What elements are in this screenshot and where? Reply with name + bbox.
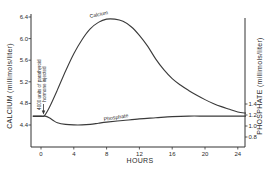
y-tick-label: 4.8 (20, 100, 29, 106)
series-line-phosphate (33, 116, 246, 125)
y-tick-label: 6.0 (20, 36, 29, 42)
x-tick-label: 16 (169, 151, 176, 157)
injection-annotation-text: 4000 units of parathyroid hormone inject… (37, 58, 47, 110)
x-tick-label: 0 (39, 151, 43, 157)
injection-annotation-line2: hormone injected (42, 66, 47, 102)
chart: 04812162024 4.44.85.25.66.06.4 0.81.01.2… (0, 0, 272, 170)
series-line-calcium (33, 19, 246, 117)
y-tick-label: 5.6 (20, 57, 29, 63)
y-tick-label: 4.4 (20, 122, 29, 128)
y-ticks: 4.44.85.25.66.06.4 (20, 14, 31, 128)
x-tick-label: 4 (72, 151, 76, 157)
x-ticks: 04812162024 (39, 147, 241, 157)
x-tick-label: 20 (202, 151, 209, 157)
x-axis-title: HOURS (127, 157, 154, 164)
injection-annotation: 4000 units of parathyroid hormone inject… (37, 58, 47, 114)
x-tick-label: 8 (105, 151, 109, 157)
y-tick-label: 6.4 (20, 14, 29, 20)
arrow-head-icon (42, 111, 45, 115)
y-axis-title: CALCIUM (millimols/liter) (6, 43, 14, 129)
y2-axis-title: PHOSPHATE (millimols/liter) (256, 37, 264, 134)
x-tick-label: 12 (136, 151, 143, 157)
y-tick-label: 5.2 (20, 79, 29, 85)
series (33, 19, 246, 125)
series-label-calcium: Calcium (89, 9, 109, 19)
x-tick-label: 24 (234, 151, 241, 157)
